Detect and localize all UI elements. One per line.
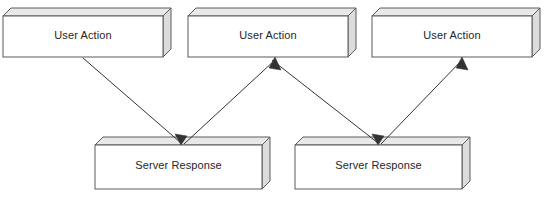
node-server-response-1[interactable] (95, 137, 270, 189)
box-side-face (462, 137, 470, 189)
edge-line (381, 60, 462, 144)
box-front-face (95, 145, 262, 189)
node-user-action-2[interactable] (188, 8, 356, 57)
diagram-canvas: User Action User Action User Action Serv… (0, 0, 555, 199)
box-side-face (348, 8, 356, 57)
node-user-action-1[interactable] (3, 8, 171, 57)
diagram-svg (0, 0, 555, 199)
arrowhead-icon (456, 57, 468, 70)
box-top-face (188, 8, 356, 16)
box-front-face (295, 145, 462, 189)
box-front-face (3, 16, 163, 57)
box-top-face (372, 8, 540, 16)
box-front-face (188, 16, 348, 57)
edge-line (83, 58, 181, 143)
node-server-response-2[interactable] (295, 137, 470, 189)
edge-sr2-ua3 (381, 57, 468, 144)
edge-ua1-sr1 (83, 58, 187, 145)
edge-line (272, 60, 378, 143)
node-user-action-3[interactable] (372, 8, 540, 57)
box-side-face (163, 8, 171, 57)
edge-sr1-ua2 (184, 57, 281, 144)
box-side-face (262, 137, 270, 189)
edge-ua2-sr2 (272, 60, 384, 145)
box-side-face (532, 8, 540, 57)
edge-line (184, 60, 275, 144)
box-front-face (372, 16, 532, 57)
box-top-face (3, 8, 171, 16)
